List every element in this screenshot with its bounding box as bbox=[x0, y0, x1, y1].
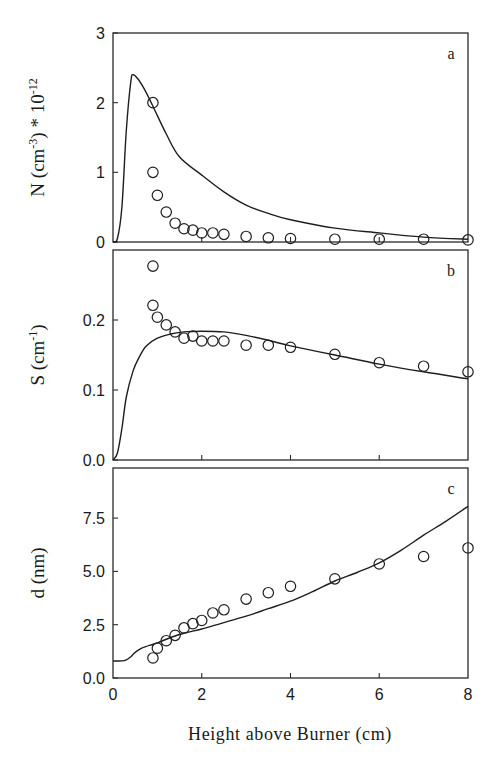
data-point bbox=[208, 336, 218, 346]
x-tick-label: 2 bbox=[197, 686, 206, 703]
data-point bbox=[148, 261, 158, 271]
x-axis-label: Height above Burner (cm) bbox=[188, 724, 392, 745]
x-tick-label: 8 bbox=[464, 686, 473, 703]
data-point bbox=[219, 336, 229, 346]
x-tick-label: 0 bbox=[109, 686, 118, 703]
x-tick-label: 6 bbox=[375, 686, 384, 703]
data-point bbox=[197, 228, 207, 238]
y-axis-label: N (cm-3) * 10-12 bbox=[26, 78, 49, 196]
data-point bbox=[208, 228, 218, 238]
model-curve bbox=[113, 331, 468, 460]
data-point bbox=[197, 615, 207, 625]
panels-group: 0123aN (cm-3) * 10-120.00.10.2bS (cm-1)0… bbox=[26, 25, 473, 687]
data-point bbox=[241, 340, 251, 350]
plot-frame bbox=[113, 250, 468, 460]
data-point bbox=[148, 300, 158, 310]
y-tick-label: 2 bbox=[96, 95, 105, 112]
data-point bbox=[161, 207, 171, 217]
panel-label: a bbox=[447, 45, 454, 62]
data-point bbox=[418, 361, 428, 371]
data-point bbox=[418, 234, 428, 244]
data-point bbox=[152, 190, 162, 200]
data-point bbox=[263, 588, 273, 598]
data-point bbox=[161, 320, 171, 330]
y-tick-label: 0.1 bbox=[83, 382, 105, 399]
panel-b: 0.00.10.2bS (cm-1) bbox=[26, 250, 473, 469]
y-tick-label: 5.0 bbox=[83, 563, 105, 580]
data-point bbox=[241, 231, 251, 241]
x-axis: 02468 Height above Burner (cm) bbox=[109, 686, 473, 745]
y-axis-label: d (nm) bbox=[27, 547, 49, 598]
x-tick-labels: 02468 bbox=[109, 686, 473, 703]
y-tick-label: 0.0 bbox=[83, 670, 105, 687]
y-tick-label: 2.5 bbox=[83, 617, 105, 634]
data-point bbox=[418, 551, 428, 561]
y-tick-label: 3 bbox=[96, 25, 105, 42]
y-tick-label: 0.0 bbox=[83, 452, 105, 469]
figure: 0123aN (cm-3) * 10-120.00.10.2bS (cm-1)0… bbox=[0, 0, 496, 762]
y-axis-label: S (cm-1) bbox=[26, 324, 49, 385]
data-point bbox=[148, 653, 158, 663]
data-point bbox=[219, 229, 229, 239]
data-point bbox=[219, 605, 229, 615]
data-point bbox=[241, 594, 251, 604]
panel-label: c bbox=[447, 480, 454, 497]
data-point bbox=[285, 581, 295, 591]
data-point bbox=[263, 340, 273, 350]
y-tick-label: 7.5 bbox=[83, 510, 105, 527]
y-tick-label: 0.2 bbox=[83, 312, 105, 329]
data-point bbox=[208, 608, 218, 618]
data-point bbox=[152, 643, 162, 653]
data-point bbox=[152, 312, 162, 322]
data-point bbox=[148, 167, 158, 177]
panel-label: b bbox=[447, 262, 455, 279]
plot-frame bbox=[113, 33, 468, 242]
data-point bbox=[330, 234, 340, 244]
panel-a: 0123aN (cm-3) * 10-12 bbox=[26, 25, 473, 251]
model-curve bbox=[113, 506, 468, 661]
multi-panel-chart: 0123aN (cm-3) * 10-120.00.10.2bS (cm-1)0… bbox=[0, 0, 496, 762]
data-point bbox=[197, 336, 207, 346]
panel-c: 0.02.55.07.5cd (nm) bbox=[27, 468, 473, 687]
plot-frame bbox=[113, 468, 468, 678]
y-tick-label: 0 bbox=[96, 234, 105, 251]
y-tick-label: 1 bbox=[96, 164, 105, 181]
x-tick-label: 4 bbox=[286, 686, 295, 703]
